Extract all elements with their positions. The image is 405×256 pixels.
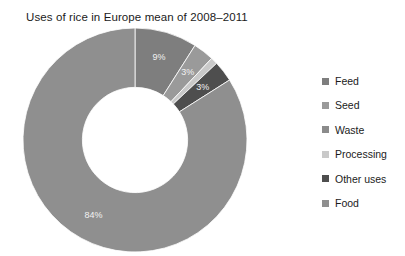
chart-legend: FeedSeedWasteProcessingOther usesFood [322, 69, 402, 215]
donut-slices [23, 28, 247, 252]
legend-item-food[interactable]: Food [322, 191, 402, 215]
legend-item-label: Waste [335, 125, 364, 136]
legend-swatch-icon [322, 78, 329, 85]
legend-item-label: Feed [335, 76, 359, 87]
legend-item-label: Other uses [335, 174, 386, 185]
legend-item-waste[interactable]: Waste [322, 118, 402, 142]
legend-item-seed[interactable]: Seed [322, 93, 402, 117]
legend-swatch-icon [322, 175, 329, 182]
chart-title: Uses of rice in Europe mean of 2008–2011 [26, 11, 248, 23]
legend-item-other-uses[interactable]: Other uses [322, 167, 402, 191]
donut-chart-svg: 9%3%3%84% [22, 27, 248, 253]
slice-label-feed: 9% [152, 52, 165, 62]
legend-swatch-icon [322, 200, 329, 207]
chart-container: Uses of rice in Europe mean of 2008–2011… [0, 0, 405, 256]
legend-item-label: Food [335, 198, 359, 209]
slice-label-food: 84% [85, 210, 103, 220]
legend-item-feed[interactable]: Feed [322, 69, 402, 93]
legend-swatch-icon [322, 102, 329, 109]
donut-chart: 9%3%3%84% [22, 27, 248, 253]
slice-label-other-uses: 3% [196, 82, 209, 92]
legend-swatch-icon [322, 151, 329, 158]
slice-label-seed: 3% [181, 67, 194, 77]
legend-item-label: Processing [335, 149, 387, 160]
legend-item-label: Seed [335, 100, 360, 111]
legend-item-processing[interactable]: Processing [322, 142, 402, 166]
legend-swatch-icon [322, 126, 329, 133]
